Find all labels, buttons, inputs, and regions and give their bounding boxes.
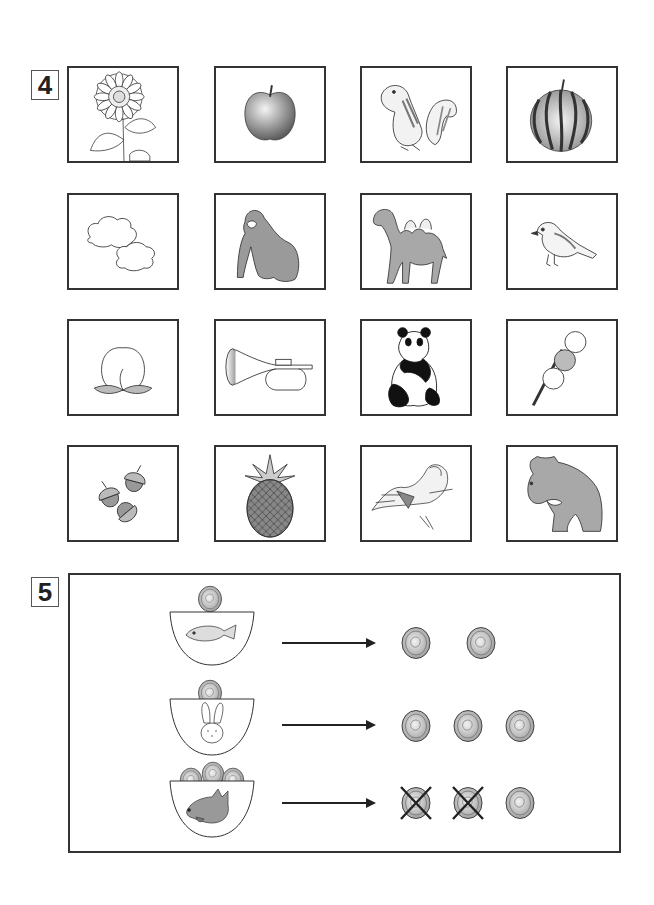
question-5-number: 5 (31, 577, 59, 607)
card-acorns[interactable] (67, 445, 179, 542)
bear-icon (508, 447, 616, 540)
bowl-rabbit (166, 679, 258, 769)
card-clouds[interactable] (67, 193, 179, 290)
coin-icon (452, 709, 484, 743)
bowl-fish (166, 585, 258, 675)
panda-icon (362, 321, 470, 414)
card-panda[interactable] (360, 319, 472, 416)
q5-row-rabbit (70, 679, 619, 769)
card-bear[interactable] (506, 445, 618, 542)
question-4-number: 4 (31, 70, 59, 100)
q5-row-wolf (70, 761, 619, 851)
card-trumpet[interactable] (214, 319, 326, 416)
sea-otter-icon (362, 447, 470, 540)
card-peach[interactable] (67, 319, 179, 416)
gorilla-icon (216, 195, 324, 288)
card-gorilla[interactable] (214, 193, 326, 290)
peach-icon (69, 321, 177, 414)
bowl-wolf (166, 761, 258, 851)
card-dango[interactable] (506, 319, 618, 416)
dango-icon (508, 321, 616, 414)
sunflower-icon (69, 68, 177, 161)
card-apple[interactable] (214, 66, 326, 163)
card-camel[interactable] (360, 193, 472, 290)
coin-icon (400, 709, 432, 743)
arrow-icon (282, 797, 377, 809)
q5-row-fish (70, 585, 619, 675)
watermelon-icon (508, 68, 616, 161)
coin-crossed-icon (452, 786, 484, 820)
card-sunflower[interactable] (67, 66, 179, 163)
card-chipmunk[interactable] (360, 66, 472, 163)
arrow-icon (282, 637, 377, 649)
coin-crossed-icon (400, 786, 432, 820)
coin-icon (465, 626, 497, 660)
coin-icon (400, 626, 432, 660)
acorns-icon (69, 447, 177, 540)
card-sea-otter[interactable] (360, 445, 472, 542)
camel-icon (362, 195, 470, 288)
card-sparrow[interactable] (506, 193, 618, 290)
coin-icon (504, 786, 536, 820)
question-5-frame (68, 573, 621, 853)
chipmunk-icon (362, 68, 470, 161)
clouds-icon (69, 195, 177, 288)
sparrow-icon (508, 195, 616, 288)
card-watermelon[interactable] (506, 66, 618, 163)
pineapple-icon (216, 447, 324, 540)
apple-icon (216, 68, 324, 161)
arrow-icon (282, 719, 377, 731)
coin-icon (504, 709, 536, 743)
card-pineapple[interactable] (214, 445, 326, 542)
trumpet-icon (216, 321, 324, 414)
